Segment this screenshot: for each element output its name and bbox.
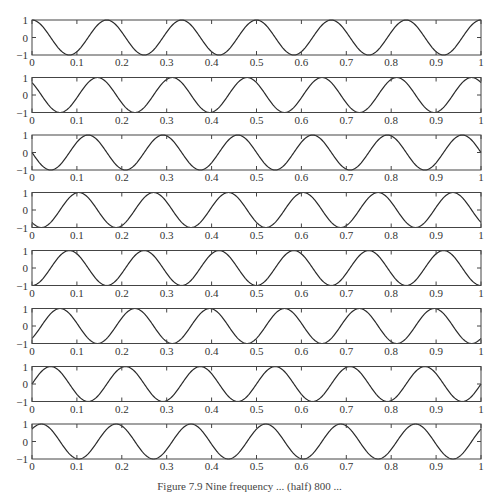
x-tick-label: 0.1	[70, 171, 84, 183]
y-tick-label: 1	[23, 14, 29, 26]
x-tick-label: 0.4	[205, 56, 219, 68]
axes-frame	[32, 20, 481, 55]
subplot-6: 00.10.20.30.40.50.60.70.80.91−101	[16, 303, 483, 357]
x-tick-label: 0.8	[384, 171, 398, 183]
axes-frame	[32, 251, 481, 286]
x-tick-label: 0.2	[115, 114, 129, 126]
x-tick-label: 0	[29, 229, 35, 241]
x-tick-label: 0.3	[160, 171, 174, 183]
x-tick-label: 0.8	[384, 229, 398, 241]
x-tick-label: 0.9	[429, 460, 443, 472]
x-tick-label: 1	[478, 56, 484, 68]
subplot-5: 00.10.20.30.40.50.60.70.80.91−101	[16, 245, 483, 299]
y-tick-label: 0	[23, 436, 29, 448]
x-tick-label: 0.2	[115, 171, 129, 183]
x-tick-label: 0	[29, 287, 35, 299]
x-tick-label: 0.2	[115, 345, 129, 357]
x-tick-label: 0.5	[250, 287, 264, 299]
sine-curve	[32, 367, 481, 402]
x-tick-label: 0	[29, 114, 35, 126]
sine-curve	[32, 20, 481, 55]
y-tick-label: 0	[23, 32, 29, 44]
x-tick-label: 0.1	[70, 114, 84, 126]
x-tick-label: 0	[29, 56, 35, 68]
subplot-4: 00.10.20.30.40.50.60.70.80.91−101	[16, 187, 483, 241]
sine-curve	[32, 135, 481, 170]
x-tick-label: 0.7	[339, 403, 353, 415]
x-tick-label: 0.8	[384, 403, 398, 415]
x-tick-label: 0.5	[250, 403, 264, 415]
y-tick-label: 1	[23, 72, 29, 84]
x-tick-label: 0.8	[384, 114, 398, 126]
x-tick-label: 0.4	[205, 345, 219, 357]
x-tick-label: 0.9	[429, 403, 443, 415]
x-tick-label: 0.2	[115, 56, 129, 68]
x-tick-label: 0.9	[429, 114, 443, 126]
x-tick-label: 1	[478, 403, 484, 415]
y-tick-label: 0	[23, 147, 29, 159]
x-tick-label: 0.7	[339, 171, 353, 183]
x-tick-label: 0	[29, 345, 35, 357]
x-tick-label: 0.9	[429, 229, 443, 241]
subplot-7: 00.10.20.30.40.50.60.70.80.91−101	[16, 361, 483, 415]
y-tick-label: −1	[16, 338, 28, 350]
x-tick-label: 0.6	[295, 287, 309, 299]
y-tick-label: 0	[23, 320, 29, 332]
x-tick-label: 0.8	[384, 56, 398, 68]
y-tick-label: 1	[23, 418, 29, 430]
x-tick-label: 0.5	[250, 114, 264, 126]
x-tick-label: 0.9	[429, 171, 443, 183]
x-tick-label: 0.2	[115, 229, 129, 241]
subplot-8: 00.10.20.30.40.50.60.70.80.91−101	[16, 418, 483, 472]
x-tick-label: 0.9	[429, 345, 443, 357]
x-tick-label: 0.5	[250, 56, 264, 68]
x-tick-label: 0.4	[205, 460, 219, 472]
x-tick-label: 0	[29, 171, 35, 183]
x-tick-label: 1	[478, 345, 484, 357]
x-tick-label: 0.2	[115, 460, 129, 472]
x-tick-label: 0.6	[295, 403, 309, 415]
y-tick-label: 1	[23, 187, 29, 199]
y-tick-label: 0	[23, 89, 29, 101]
x-tick-label: 0.8	[384, 287, 398, 299]
x-tick-label: 0.4	[205, 171, 219, 183]
x-tick-label: 0.9	[429, 56, 443, 68]
y-tick-label: −1	[16, 49, 28, 61]
x-tick-label: 0.4	[205, 229, 219, 241]
x-tick-label: 0.2	[115, 403, 129, 415]
x-tick-label: 1	[478, 287, 484, 299]
sine-curve	[32, 309, 481, 344]
x-tick-label: 0.4	[205, 403, 219, 415]
x-tick-label: 0	[29, 460, 35, 472]
y-tick-label: 1	[23, 303, 29, 315]
x-tick-label: 0.1	[70, 287, 84, 299]
x-tick-label: 0.3	[160, 114, 174, 126]
y-tick-label: −1	[16, 396, 28, 408]
y-tick-label: 0	[23, 378, 29, 390]
x-tick-label: 0	[29, 403, 35, 415]
y-tick-label: 1	[23, 245, 29, 257]
x-tick-label: 0.1	[70, 403, 84, 415]
x-tick-label: 0.1	[70, 56, 84, 68]
x-tick-label: 0.2	[115, 287, 129, 299]
x-tick-label: 0.6	[295, 114, 309, 126]
figure-caption: Figure 7.9 Nine frequency ... (half) 800…	[0, 480, 499, 492]
y-tick-label: 1	[23, 129, 29, 141]
x-tick-label: 0.6	[295, 56, 309, 68]
x-tick-label: 0.5	[250, 229, 264, 241]
x-tick-label: 0.7	[339, 229, 353, 241]
x-tick-label: 0.6	[295, 460, 309, 472]
sine-curve	[32, 78, 481, 113]
x-tick-label: 0.7	[339, 56, 353, 68]
x-tick-label: 1	[478, 460, 484, 472]
x-tick-label: 0.4	[205, 114, 219, 126]
x-tick-label: 0.3	[160, 56, 174, 68]
x-tick-label: 1	[478, 114, 484, 126]
x-tick-label: 0.4	[205, 287, 219, 299]
x-tick-label: 0.3	[160, 287, 174, 299]
x-tick-label: 0.1	[70, 460, 84, 472]
x-tick-label: 0.1	[70, 345, 84, 357]
x-tick-label: 1	[478, 171, 484, 183]
x-tick-label: 0.6	[295, 229, 309, 241]
